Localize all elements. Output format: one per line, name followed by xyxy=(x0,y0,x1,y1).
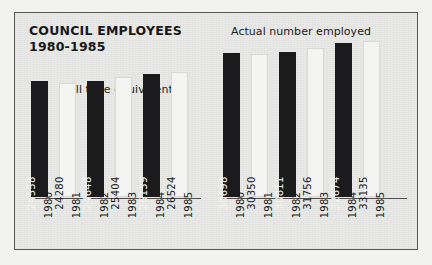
bar-slot: 30350 xyxy=(251,37,268,197)
year-tick-label: 1985 xyxy=(372,192,389,219)
bar xyxy=(223,53,240,197)
bar-slot: 31756 xyxy=(307,37,324,197)
year-slot: 1985 xyxy=(171,199,188,249)
year-tick-label: 1983 xyxy=(316,192,333,219)
year-tick-label: 1983 xyxy=(124,192,141,219)
year-slot: 1984 xyxy=(143,199,160,249)
year-tick-label: 1985 xyxy=(180,192,197,219)
year-tick-label: 1984 xyxy=(344,192,361,219)
bar-slot: 26524 xyxy=(171,37,188,197)
year-slot: 1985 xyxy=(363,199,380,249)
year-slot: 1981 xyxy=(251,199,268,249)
bars-row-right: 30698 30350 30811 31756 32674 xyxy=(223,37,407,197)
scanned-page-backdrop: COUNCIL EMPLOYEES 1980-1985 Full time eq… xyxy=(0,0,432,265)
year-slot: 1984 xyxy=(335,199,352,249)
year-slot: 1980 xyxy=(31,199,48,249)
bar-slot: 24558 xyxy=(31,37,48,197)
year-slot: 1982 xyxy=(87,199,104,249)
bar-group-full-time-equivalents: 24558 24280 24648 25404 26139 xyxy=(31,37,201,197)
year-slot: 1983 xyxy=(115,199,132,249)
year-slot: 1983 xyxy=(307,199,324,249)
bar-slot: 25404 xyxy=(115,37,132,197)
bar xyxy=(279,52,296,197)
bar xyxy=(363,41,380,197)
year-tick-label: 1980 xyxy=(232,192,249,219)
year-tick-label: 1982 xyxy=(288,192,305,219)
year-tick-label: 1981 xyxy=(260,192,277,219)
year-axis-left: 1980 1981 1982 1983 1984 1985 xyxy=(31,199,201,249)
year-slot: 1982 xyxy=(279,199,296,249)
bar-slot: 30811 xyxy=(279,37,296,197)
bar-slot: 32674 xyxy=(335,37,352,197)
year-tick-label: 1980 xyxy=(40,192,57,219)
year-axis-right: 1980 1981 1982 1983 1984 1985 xyxy=(223,199,407,249)
year-tick-label: 1981 xyxy=(68,192,85,219)
year-tick-label: 1984 xyxy=(152,192,169,219)
bar-slot: 33135 xyxy=(363,37,380,197)
bar-group-actual-number-employed: 30698 30350 30811 31756 32674 xyxy=(223,37,407,197)
bar xyxy=(307,48,324,197)
year-slot: 1980 xyxy=(223,199,240,249)
bar-slot: 24280 xyxy=(59,37,76,197)
bar-slot: 24648 xyxy=(87,37,104,197)
bar xyxy=(335,43,352,197)
bars-row-left: 24558 24280 24648 25404 26139 xyxy=(31,37,201,197)
bar-slot: 30698 xyxy=(223,37,240,197)
chart-panel: COUNCIL EMPLOYEES 1980-1985 Full time eq… xyxy=(14,12,418,250)
year-tick-label: 1982 xyxy=(96,192,113,219)
year-slot: 1981 xyxy=(59,199,76,249)
bar-slot: 26139 xyxy=(143,37,160,197)
